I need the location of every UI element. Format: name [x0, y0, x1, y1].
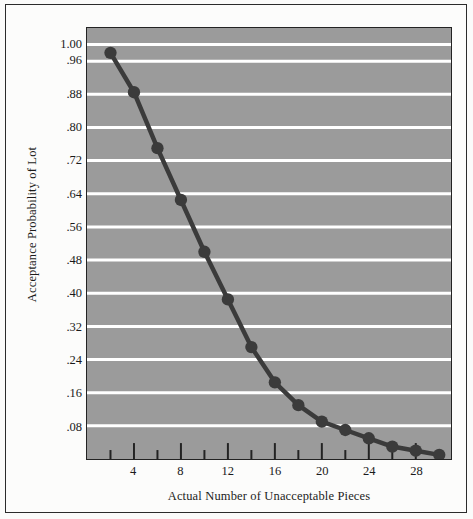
y-tick-label: .80: [24, 119, 82, 134]
x-tick-label: 28: [397, 464, 437, 479]
data-point: [269, 376, 281, 388]
y-tick-label: .48: [24, 253, 82, 268]
chart-page: Acceptance Probability of Lot .08.16.24.…: [0, 0, 473, 519]
page-border: Acceptance Probability of Lot .08.16.24.…: [5, 4, 467, 513]
data-point: [386, 440, 398, 452]
y-tick-label: .72: [24, 153, 82, 168]
data-line: [110, 53, 439, 455]
x-tick-label: 12: [208, 464, 248, 479]
data-point: [175, 194, 187, 206]
data-point: [222, 293, 234, 305]
data-point: [151, 142, 163, 154]
data-point: [410, 445, 422, 457]
data-markers: [104, 47, 445, 459]
y-tick-label: .24: [24, 353, 82, 368]
y-axis-tick-labels: .08.16.24.32.40.48.56.64.72.80.88.961.00: [20, 27, 82, 460]
gridlines: [87, 45, 451, 426]
x-tick-label: 4: [113, 464, 153, 479]
y-tick-label: .40: [24, 286, 82, 301]
x-tick-label: 16: [255, 464, 295, 479]
x-axis-title: Actual Number of Unacceptable Pieces: [86, 489, 452, 504]
y-tick-label: .32: [24, 319, 82, 334]
data-point: [433, 449, 445, 459]
y-tick-label: .08: [24, 419, 82, 434]
y-tick-label: .88: [24, 86, 82, 101]
x-axis-tick-labels: 481216202428: [86, 464, 452, 484]
chart-canvas: [87, 28, 451, 459]
x-tick-label: 8: [160, 464, 200, 479]
data-point: [128, 86, 140, 98]
data-point: [104, 47, 116, 59]
y-tick-label: .96: [24, 53, 82, 68]
x-tick-label: 24: [349, 464, 389, 479]
data-point: [198, 246, 210, 258]
data-point: [339, 424, 351, 436]
y-tick-label: 1.00: [24, 36, 82, 51]
x-tick-label: 20: [302, 464, 342, 479]
data-point: [245, 341, 257, 353]
data-point: [316, 416, 328, 428]
plot-area: [86, 27, 452, 460]
data-point: [363, 432, 375, 444]
data-point: [292, 399, 304, 411]
y-tick-label: .56: [24, 219, 82, 234]
y-tick-label: .16: [24, 386, 82, 401]
y-tick-label: .64: [24, 186, 82, 201]
